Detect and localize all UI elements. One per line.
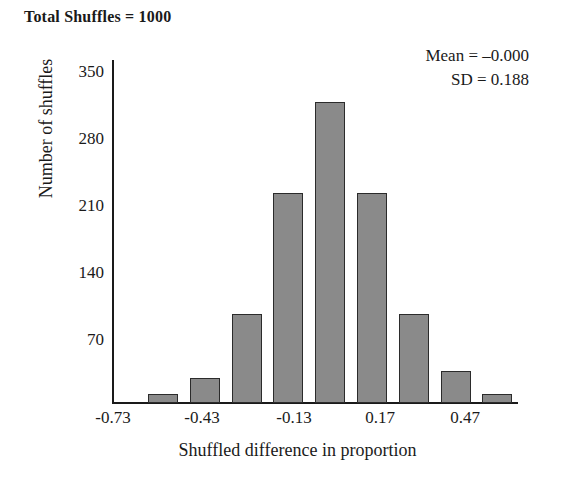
- x-tick-label: 0.17: [365, 408, 395, 428]
- histogram-bar: [232, 314, 262, 403]
- x-tick-label: -0.13: [276, 408, 311, 428]
- histogram-bar: [357, 193, 387, 403]
- x-axis-title-text: Shuffled difference in proportion: [155, 440, 417, 461]
- x-axis-title: Shuffled difference in proportion: [0, 440, 571, 461]
- chart-canvas: Total Shuffles = 1000 Mean = –0.000 SD =…: [0, 0, 571, 486]
- histogram-bar: [148, 394, 178, 403]
- histogram-bar: [482, 394, 512, 403]
- x-tick-label: -0.73: [95, 408, 130, 428]
- histogram-bar: [315, 102, 345, 403]
- x-tick-label: -0.43: [184, 408, 219, 428]
- histogram-bar: [399, 314, 429, 403]
- histogram-bar: [190, 378, 220, 403]
- histogram-bar: [441, 371, 471, 403]
- x-tick-label: 0.47: [450, 408, 480, 428]
- histogram-bar: [273, 193, 303, 403]
